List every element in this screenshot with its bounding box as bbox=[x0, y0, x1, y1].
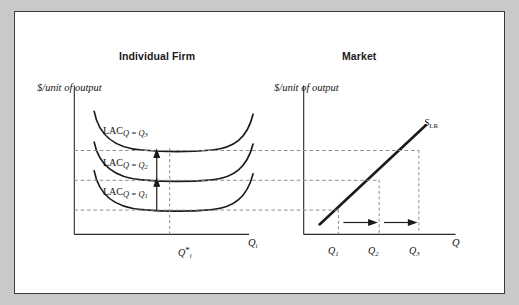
market-x-tick-q2-sub: 2 bbox=[375, 250, 378, 257]
market-x-tick-q2: Q2 bbox=[368, 245, 379, 257]
market-x-tick-q1-sub: 1 bbox=[335, 250, 338, 257]
lac-label-q1-eq: Q = Q bbox=[123, 190, 144, 199]
lac-label-q1: LACQ = Q1 bbox=[103, 186, 148, 199]
lac-label-q2-index: 2 bbox=[144, 163, 147, 170]
market-supply-curve bbox=[320, 125, 426, 224]
lac-label-q3-name: LAC bbox=[103, 125, 123, 136]
firm-x-axis-name: Qi bbox=[248, 237, 258, 250]
market-x-axis-name: Q bbox=[452, 237, 460, 248]
market-shift-arrows bbox=[343, 220, 415, 225]
lac-label-q3: LACQ = Q3 bbox=[103, 125, 148, 138]
slr-line bbox=[320, 125, 426, 224]
market-y-axis-caption: $/unit of output bbox=[274, 82, 339, 93]
market-x-tick-q1: Q1 bbox=[328, 245, 339, 257]
firm-x-tick-qstar-sub: i bbox=[190, 252, 192, 259]
lac-label-q2-name: LAC bbox=[103, 157, 123, 168]
supply-curve-label: SLR bbox=[424, 117, 438, 129]
panel-title-market: Market bbox=[342, 50, 376, 62]
market-quantity-guides bbox=[338, 150, 418, 234]
lac-label-q3-eq: Q = Q bbox=[123, 129, 144, 138]
lac-label-q3-index: 3 bbox=[144, 131, 147, 138]
lac-label-q2: LACQ = Q2 bbox=[103, 157, 148, 170]
lac-label-q1-name: LAC bbox=[103, 186, 123, 197]
firm-y-axis-caption: $/unit of output bbox=[37, 82, 102, 93]
firm-x-tick-qstar: Q*i bbox=[178, 245, 192, 259]
firm-x-axis-name-sub: i bbox=[256, 242, 258, 250]
lac-label-q2-eq: Q = Q bbox=[123, 161, 144, 170]
market-x-tick-q3: Q3 bbox=[409, 245, 420, 257]
supply-curve-label-sub: LR bbox=[429, 122, 438, 129]
lac-label-q1-index: 1 bbox=[144, 192, 147, 199]
firm-x-axis-name-main: Q bbox=[248, 237, 256, 248]
market-x-tick-q3-sub: 3 bbox=[416, 250, 419, 257]
market-panel-axes bbox=[304, 85, 456, 234]
panel-title-individual-firm: Individual Firm bbox=[119, 50, 195, 62]
figure-frame: Individual Firm Market $/unit of output … bbox=[14, 11, 505, 294]
figure-canvas bbox=[15, 12, 504, 293]
